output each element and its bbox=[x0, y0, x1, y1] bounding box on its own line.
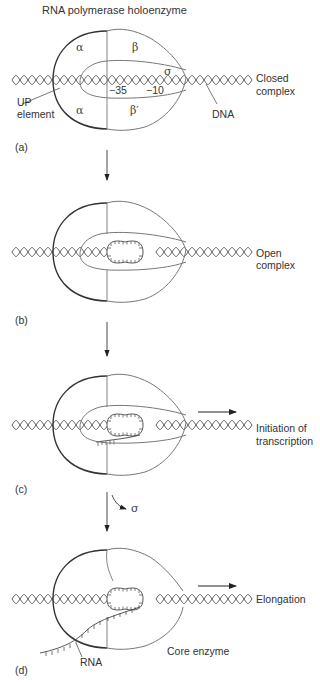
sigma-released-label: σ bbox=[131, 502, 139, 515]
panel-b-label: (b) bbox=[15, 314, 28, 326]
initiation-label-line1: Initiation of bbox=[256, 422, 307, 434]
dna-label: DNA bbox=[212, 108, 234, 120]
transcription-diagram bbox=[0, 0, 320, 684]
sigma-release-arrow bbox=[112, 495, 126, 509]
open-complex-label-line1: Open bbox=[256, 247, 282, 259]
beta-label: β bbox=[132, 41, 138, 54]
up-element-label-line2: element bbox=[17, 108, 54, 120]
closed-complex-label-line2: complex bbox=[256, 85, 295, 97]
panel-b bbox=[12, 201, 252, 302]
sigma-label: σ bbox=[164, 65, 172, 78]
rna-label: RNA bbox=[80, 656, 102, 668]
up-element-label-line1: UP bbox=[17, 96, 32, 108]
panel-c-label: (c) bbox=[15, 483, 27, 495]
open-complex-label-line2: complex bbox=[256, 259, 295, 271]
diagram-title: RNA polymerase holoenzyme bbox=[42, 4, 187, 16]
initiation-label-line2: transcription bbox=[256, 435, 313, 447]
panel-d bbox=[12, 548, 252, 657]
panel-d-label: (d) bbox=[15, 664, 28, 676]
minus-10-label: −10 bbox=[146, 84, 164, 96]
elongation-label: Elongation bbox=[256, 593, 306, 605]
alpha-top-label: α bbox=[76, 41, 83, 54]
beta-prime-label: β′ bbox=[130, 104, 139, 117]
closed-complex-label-line1: Closed bbox=[256, 72, 289, 84]
panel-a-label: (a) bbox=[15, 141, 28, 153]
panel-c bbox=[12, 374, 252, 475]
alpha-bottom-label: α bbox=[76, 104, 83, 117]
minus-35-label: −35 bbox=[109, 84, 127, 96]
core-enzyme-label: Core enzyme bbox=[167, 645, 229, 657]
